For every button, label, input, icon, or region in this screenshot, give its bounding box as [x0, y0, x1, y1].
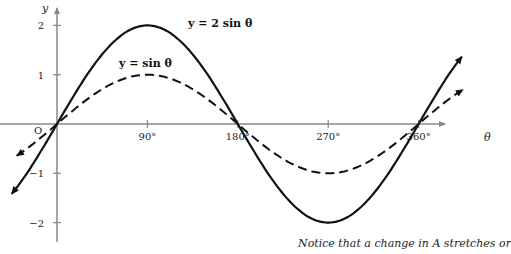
y-tick-label: 2: [38, 20, 44, 31]
x-axis-label: θ: [484, 131, 491, 144]
y-tick-label: −2: [29, 218, 44, 229]
caption: Notice that a change in A stretches or: [298, 237, 511, 250]
x-tick-label: 270°: [316, 131, 340, 142]
y-axis-label: y: [41, 2, 49, 15]
x-tick-label: 90°: [139, 131, 157, 142]
label-2-sin-theta: y = 2 sin θ: [187, 17, 252, 30]
label-sin-theta: y = sin θ: [118, 57, 172, 70]
origin-label: O: [34, 125, 42, 136]
y-tick-label: 1: [38, 70, 44, 81]
y-tick-label: −1: [29, 168, 44, 179]
